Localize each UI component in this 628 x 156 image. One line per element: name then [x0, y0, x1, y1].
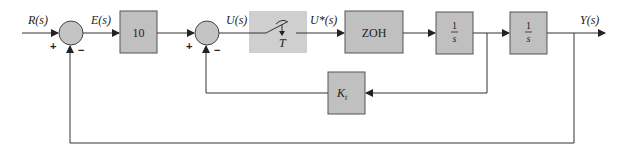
integrator-1-denominator: s — [453, 33, 457, 44]
error-label: E(s) — [90, 13, 111, 27]
sum1-minus-sign: − — [78, 44, 84, 56]
sum2-plus-sign: + — [186, 40, 192, 52]
summing-junction-2: + − — [186, 21, 220, 56]
integrator-2-numerator: 1 — [526, 20, 531, 31]
integrator-block-1: 1 s — [436, 12, 473, 54]
zoh-block: ZOH — [345, 11, 403, 53]
zoh-block-label: ZOH — [362, 26, 387, 40]
gain-block-label: 10 — [133, 26, 145, 40]
input-label: R(s) — [27, 13, 48, 27]
sum1-plus-sign: + — [50, 40, 56, 52]
sampler-block — [249, 11, 307, 53]
output-label: Y(s) — [580, 13, 599, 27]
inner-feedback-return-wire — [206, 46, 328, 93]
summing-junction-1-circle — [59, 21, 83, 45]
gain-block: 10 — [120, 11, 157, 53]
integrator-block-2: 1 s — [510, 12, 547, 54]
feedback-gain-block: Kt — [328, 72, 365, 114]
summing-junction-2-circle — [195, 21, 219, 45]
summing-junction-1: + − — [50, 21, 84, 56]
sampled-label: U*(s) — [310, 13, 337, 27]
sum2-minus-sign: − — [214, 44, 220, 56]
integrator-2-denominator: s — [527, 33, 531, 44]
integrator-1-numerator: 1 — [452, 20, 457, 31]
block-diagram: R(s) + − E(s) 10 + − U(s) T U*(s) ZO — [0, 0, 628, 156]
control-label: U(s) — [226, 13, 247, 27]
